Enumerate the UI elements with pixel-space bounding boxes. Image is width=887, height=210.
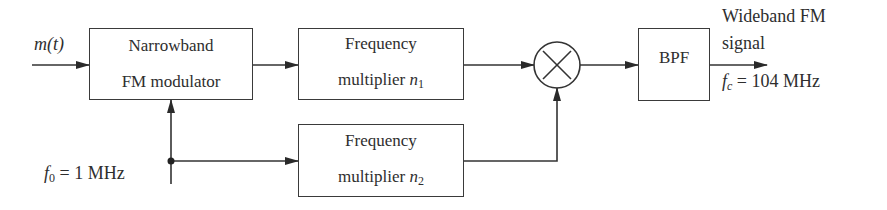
output-label-line1: Wideband FM <box>722 6 826 27</box>
block-label-line1: Narrowband <box>129 28 214 64</box>
output-frequency-label: fc = 104 MHz <box>722 71 820 94</box>
frequency-multiplier-n1-block: Frequency multiplier n1 <box>298 28 464 100</box>
mult2-to-mixer-arrow <box>463 88 557 161</box>
frequency-multiplier-n2-block: Frequency multiplier n2 <box>298 124 464 197</box>
output-label-line2: signal <box>722 33 765 54</box>
junction-dot <box>168 158 175 165</box>
block-label-line1: Frequency <box>345 123 417 159</box>
bpf-block: BPF <box>638 28 710 101</box>
narrowband-fm-modulator-block: Narrowband FM modulator <box>89 28 253 100</box>
block-label-line1: Frequency <box>345 26 417 62</box>
block-label-line2: multiplier n1 <box>338 62 424 102</box>
block-label-line2: multiplier n2 <box>338 159 424 199</box>
block-label-line2: FM modulator <box>122 64 221 100</box>
oscillator-label: f0 = 1 MHz <box>44 163 125 186</box>
input-label: m(t) <box>34 34 64 55</box>
block-label: BPF <box>659 43 689 73</box>
